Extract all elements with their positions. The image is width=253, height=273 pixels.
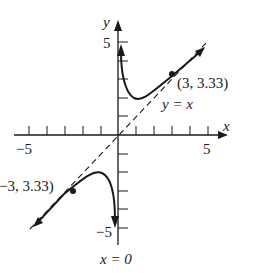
- point-neg3-neg3.33: [70, 188, 76, 194]
- point-label-right: (3, 3.33): [177, 75, 228, 92]
- asymptote-label-vertical: x = 0: [99, 251, 132, 267]
- point-label-left: −3, 3.33): [0, 178, 54, 195]
- x-tick-label-5: 5: [203, 141, 211, 157]
- y-tick-label-5: 5: [103, 35, 111, 51]
- x-tick-label-neg5: −5: [16, 141, 32, 157]
- asymptote-label-oblique: y = x: [160, 96, 193, 112]
- point-3-3.33: [169, 71, 175, 77]
- chart: y x 5 −5 −5 5 (3, 3.33) −3, 3.33) y = x …: [0, 0, 253, 273]
- y-tick-label-neg5: −5: [96, 224, 112, 240]
- y-axis-arrow-icon: [114, 20, 122, 31]
- y-axis-label: y: [101, 14, 110, 30]
- x-axis-label: x: [222, 118, 230, 134]
